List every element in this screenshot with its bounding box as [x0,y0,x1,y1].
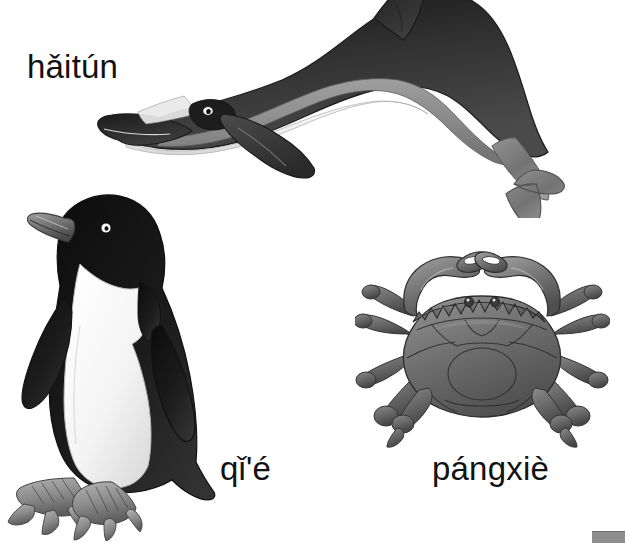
penguin-illustration [2,186,232,541]
penguin-body-group [8,195,215,541]
illustration-page: hǎitún qǐ'é pángxiè [0,0,625,543]
label-dolphin: hǎitún [27,50,118,83]
corner-marker [592,531,625,543]
label-penguin: qǐ'é [220,452,271,485]
crab-body-group [355,252,610,447]
dolphin-pupil [206,109,211,114]
crab-illustration [355,250,610,450]
label-crab: pángxiè [432,452,549,485]
penguin-pupil [105,226,109,230]
